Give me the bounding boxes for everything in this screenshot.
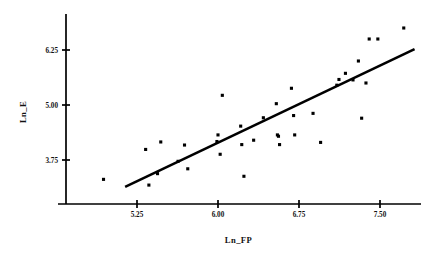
data-point	[242, 175, 245, 178]
axes	[58, 14, 421, 208]
data-point	[216, 133, 219, 136]
data-point	[360, 117, 363, 120]
data-point	[239, 125, 242, 128]
data-point	[102, 178, 105, 181]
y-tick-label: 3.75	[45, 157, 58, 165]
data-point	[376, 37, 379, 40]
data-point	[292, 114, 295, 117]
axis-labels: 3.755.006.255.256.006.757.50Ln_FPLn_E	[18, 47, 387, 245]
x-tick-label: 7.50	[374, 211, 387, 219]
x-tick-label: 6.75	[293, 211, 306, 219]
data-point	[351, 78, 354, 81]
data-point	[219, 153, 222, 156]
y-axis-title: Ln_E	[18, 101, 28, 123]
data-point	[335, 84, 338, 87]
fit-line	[125, 49, 414, 187]
data-points	[102, 26, 405, 186]
data-point	[252, 139, 255, 142]
data-point	[344, 72, 347, 75]
x-axis-title: Ln_FP	[225, 235, 252, 245]
scatter-plot-figure: 3.755.006.255.256.006.757.50Ln_FPLn_E	[0, 0, 425, 253]
data-point	[368, 37, 371, 40]
plot-canvas: 3.755.006.255.256.006.757.50Ln_FPLn_E	[0, 0, 425, 253]
data-point	[402, 26, 405, 29]
data-point	[144, 148, 147, 151]
data-point	[159, 140, 162, 143]
data-point	[337, 78, 340, 81]
data-point	[176, 160, 179, 163]
data-point	[311, 112, 314, 115]
data-point	[183, 143, 186, 146]
data-point	[186, 167, 189, 170]
data-point	[221, 94, 224, 97]
data-point	[293, 133, 296, 136]
y-tick-label: 5.00	[45, 102, 58, 110]
data-point	[364, 81, 367, 84]
y-tick-label: 6.25	[45, 47, 58, 55]
x-tick-label: 5.25	[131, 211, 144, 219]
regression-line	[125, 49, 414, 187]
data-point	[215, 140, 218, 143]
data-point	[262, 116, 265, 119]
data-point	[278, 143, 281, 146]
data-point	[156, 172, 159, 175]
data-point	[319, 141, 322, 144]
data-point	[357, 59, 360, 62]
data-point	[290, 87, 293, 90]
data-point	[277, 135, 280, 138]
data-point	[147, 184, 150, 187]
data-point	[275, 102, 278, 105]
x-tick-label: 6.00	[212, 211, 225, 219]
data-point	[240, 143, 243, 146]
